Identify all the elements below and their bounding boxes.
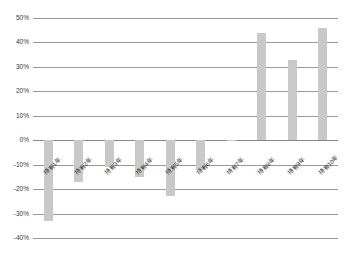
y-axis-tick-label: 10%: [0, 113, 29, 120]
y-axis-tick-label: -40%: [0, 235, 29, 242]
bar: [74, 140, 83, 182]
y-axis-tick-label: 20%: [0, 88, 29, 95]
bar: [227, 140, 236, 141]
bar: [44, 140, 53, 221]
bar: [257, 33, 266, 141]
bar: [288, 60, 297, 141]
gridline: [33, 238, 338, 239]
y-axis-tick-label: -30%: [0, 211, 29, 218]
bar-chart: 50% 40% 30% 20% 10% 0% -10% -20% -30% -4…: [0, 0, 344, 258]
bar: [318, 28, 327, 140]
y-axis-tick-label: -20%: [0, 186, 29, 193]
y-axis-tick-label: 40%: [0, 39, 29, 46]
y-axis-tick-label: 50%: [0, 15, 29, 22]
bar-series: [33, 18, 338, 238]
y-axis-tick-label: 0%: [0, 137, 29, 144]
y-axis-tick-label: -10%: [0, 162, 29, 169]
y-axis-tick-label: 30%: [0, 64, 29, 71]
